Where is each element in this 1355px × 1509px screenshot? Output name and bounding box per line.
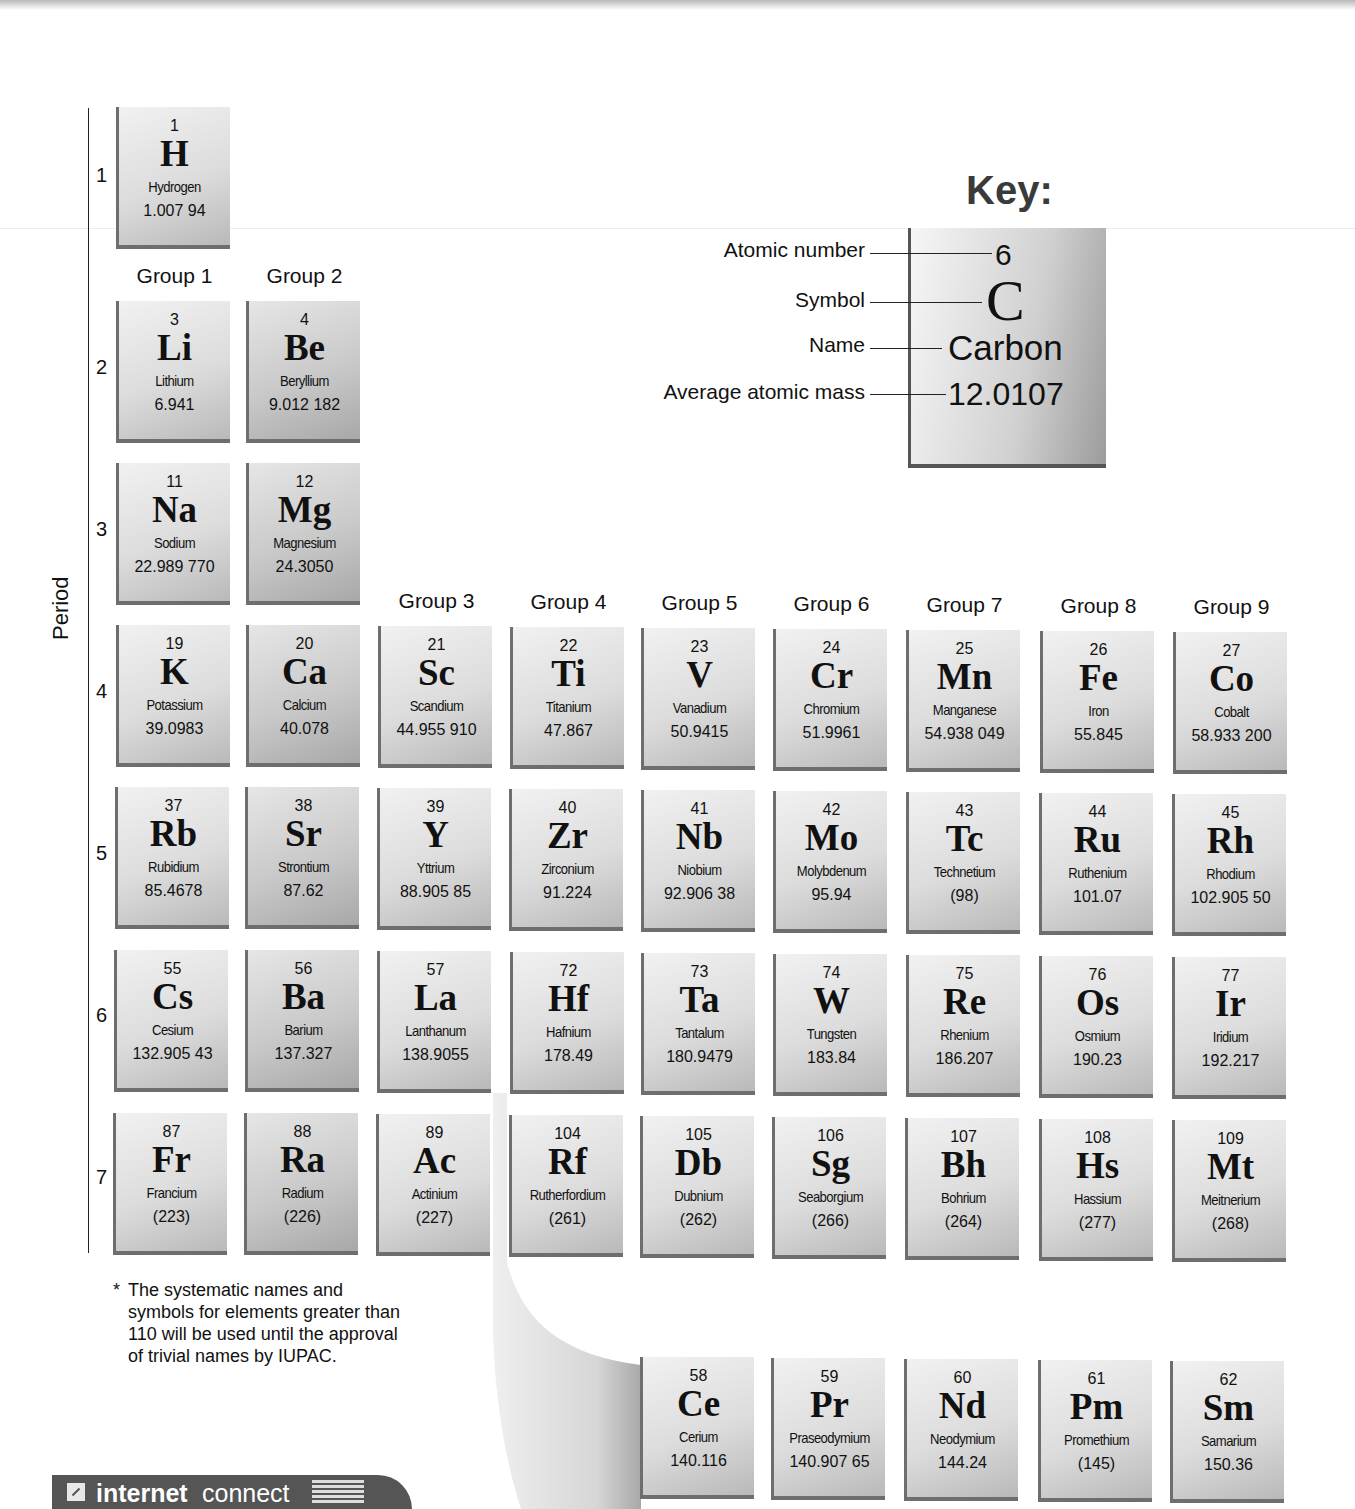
element-cell-mo[interactable]: 42 Mo Molybdenum 95.94 <box>773 791 887 933</box>
element-cell-zr[interactable]: 40 Zr Zirconium 91.224 <box>509 789 623 931</box>
element-cell-ta[interactable]: 73 Ta Tantalum 180.9479 <box>641 953 755 1095</box>
element-cell-bh[interactable]: 107 Bh Bohrium (264) <box>905 1118 1019 1260</box>
atomic-mass: (98) <box>909 887 1020 905</box>
element-cell-ti[interactable]: 22 Ti Titanium 47.867 <box>510 627 624 769</box>
element-name: Barium <box>254 1022 354 1038</box>
key-label-average-atomic-mass: Average atomic mass <box>663 380 865 404</box>
key-leader-line <box>870 394 946 395</box>
element-name: Meitnerium <box>1181 1192 1281 1208</box>
atomic-mass: (277) <box>1042 1214 1153 1232</box>
element-cell-v[interactable]: 23 V Vanadium 50.9415 <box>641 628 755 770</box>
element-symbol: Mo <box>776 817 887 859</box>
element-symbol: Bh <box>908 1144 1019 1186</box>
element-cell-rh[interactable]: 45 Rh Rhodium 102.905 50 <box>1172 794 1286 936</box>
element-symbol: Sg <box>775 1143 886 1185</box>
atomic-mass: 183.84 <box>776 1049 887 1067</box>
element-name: Lithium <box>125 373 225 389</box>
element-cell-mg[interactable]: 12 Mg Magnesium 24.3050 <box>246 463 360 605</box>
element-cell-sg[interactable]: 106 Sg Seaborgium (266) <box>772 1117 886 1259</box>
element-name: Tungsten <box>782 1026 882 1042</box>
element-cell-la[interactable]: 57 La Lanthanum 138.9055 <box>377 951 491 1093</box>
element-symbol: Cr <box>776 655 887 697</box>
element-symbol: Hs <box>1042 1145 1153 1187</box>
element-cell-ra[interactable]: 88 Ra Radium (226) <box>244 1113 358 1255</box>
element-symbol: Nd <box>907 1385 1018 1427</box>
atomic-mass: 39.0983 <box>119 720 230 738</box>
element-cell-ru[interactable]: 44 Ru Ruthenium 101.07 <box>1039 793 1153 935</box>
element-name: Molybdenum <box>782 863 882 879</box>
atomic-mass: 51.9961 <box>776 724 887 742</box>
atomic-mass: (262) <box>643 1211 754 1229</box>
group-label-4: Group 4 <box>510 590 627 614</box>
internet-connect-bold: internet <box>96 1479 188 1508</box>
element-name: Iron <box>1049 703 1149 719</box>
element-cell-nd[interactable]: 60 Nd Neodymium 144.24 <box>904 1359 1018 1501</box>
element-cell-pr[interactable]: 59 Pr Praseodymium 140.907 65 <box>771 1358 885 1500</box>
element-cell-tc[interactable]: 43 Tc Technetium (98) <box>906 792 1020 934</box>
element-cell-ba[interactable]: 56 Ba Barium 137.327 <box>245 950 359 1092</box>
element-cell-k[interactable]: 19 K Potassium 39.0983 <box>116 625 230 767</box>
element-cell-sm[interactable]: 62 Sm Samarium 150.36 <box>1170 1361 1284 1503</box>
element-cell-w[interactable]: 74 W Tungsten 183.84 <box>773 954 887 1096</box>
element-cell-be[interactable]: 4 Be Beryllium 9.012 182 <box>246 301 360 443</box>
key-title: Key: <box>966 168 1053 213</box>
element-name: Francium <box>122 1185 222 1201</box>
element-cell-ce[interactable]: 58 Ce Cerium 140.116 <box>640 1357 754 1499</box>
element-cell-fr[interactable]: 87 Fr Francium (223) <box>113 1113 227 1255</box>
element-cell-h[interactable]: 1 H Hydrogen 1.007 94 <box>116 107 230 249</box>
element-cell-cr[interactable]: 24 Cr Chromium 51.9961 <box>773 629 887 771</box>
atomic-mass: 137.327 <box>248 1045 359 1063</box>
element-symbol: Nb <box>644 816 755 858</box>
element-name: Ruthenium <box>1048 865 1148 881</box>
element-cell-ca[interactable]: 20 Ca Calcium 40.078 <box>246 625 360 767</box>
atomic-mass: 138.9055 <box>380 1046 491 1064</box>
element-cell-hs[interactable]: 108 Hs Hassium (277) <box>1039 1119 1153 1261</box>
element-name: Chromium <box>782 701 882 717</box>
element-cell-fe[interactable]: 26 Fe Iron 55.845 <box>1040 631 1154 773</box>
element-cell-cs[interactable]: 55 Cs Cesium 132.905 43 <box>114 950 228 1092</box>
element-cell-hf[interactable]: 72 Hf Hafnium 178.49 <box>510 952 624 1094</box>
element-symbol: K <box>119 651 230 693</box>
atomic-mass: 144.24 <box>907 1454 1018 1472</box>
element-cell-sr[interactable]: 38 Sr Strontium 87.62 <box>245 787 359 929</box>
element-cell-db[interactable]: 105 Db Dubnium (262) <box>640 1116 754 1258</box>
atomic-mass: 102.905 50 <box>1175 889 1286 907</box>
element-cell-mt[interactable]: 109 Mt Meitnerium (268) <box>1172 1120 1286 1262</box>
element-cell-y[interactable]: 39 Y Yttrium 88.905 85 <box>377 788 491 930</box>
internet-connect-badge[interactable]: internet connect <box>52 1475 412 1509</box>
element-cell-na[interactable]: 11 Na Sodium 22.989 770 <box>116 463 230 605</box>
element-cell-ac[interactable]: 89 Ac Actinium (227) <box>376 1114 490 1256</box>
element-cell-pm[interactable]: 61 Pm Promethium (145) <box>1038 1360 1152 1502</box>
element-symbol: Sc <box>381 652 492 694</box>
element-name: Cerium <box>649 1429 749 1445</box>
atomic-mass: 54.938 049 <box>909 725 1020 743</box>
element-symbol: Co <box>1176 658 1287 700</box>
atomic-mass: 132.905 43 <box>117 1045 228 1063</box>
element-cell-mn[interactable]: 25 Mn Manganese 54.938 049 <box>906 630 1020 772</box>
element-cell-re[interactable]: 75 Re Rhenium 186.207 <box>906 955 1020 1097</box>
group-label-1: Group 1 <box>116 264 233 288</box>
element-cell-li[interactable]: 3 Li Lithium 6.941 <box>116 301 230 443</box>
element-cell-os[interactable]: 76 Os Osmium 190.23 <box>1039 956 1153 1098</box>
element-name: Magnesium <box>255 535 355 551</box>
element-name: Rhodium <box>1181 866 1281 882</box>
element-symbol: Na <box>119 489 230 531</box>
group-label-8: Group 8 <box>1040 594 1157 618</box>
element-cell-sc[interactable]: 21 Sc Scandium 44.955 910 <box>378 626 492 768</box>
element-cell-rb[interactable]: 37 Rb Rubidium 85.4678 <box>115 787 229 929</box>
element-symbol: Sm <box>1173 1387 1284 1429</box>
element-cell-co[interactable]: 27 Co Cobalt 58.933 200 <box>1173 632 1287 774</box>
element-symbol: Mn <box>909 656 1020 698</box>
key-leader-line <box>870 253 992 254</box>
key-label-symbol: Symbol <box>795 288 865 312</box>
element-name: Calcium <box>255 697 355 713</box>
element-cell-rf[interactable]: 104 Rf Rutherfordium (261) <box>509 1115 623 1257</box>
element-cell-nb[interactable]: 41 Nb Niobium 92.906 38 <box>641 790 755 932</box>
element-symbol: Be <box>249 327 360 369</box>
element-cell-ir[interactable]: 77 Ir Iridium 192.217 <box>1172 957 1286 1099</box>
element-name: Dubnium <box>649 1188 749 1204</box>
period-number-6: 6 <box>96 1004 107 1027</box>
element-symbol: Ir <box>1175 983 1286 1025</box>
element-symbol: Rb <box>118 813 229 855</box>
element-name: Hassium <box>1048 1191 1148 1207</box>
